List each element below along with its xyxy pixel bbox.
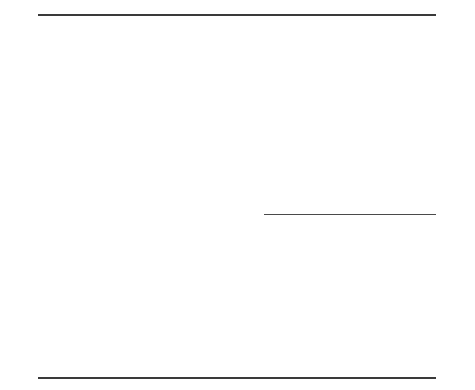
legend-divider (264, 214, 436, 215)
legend (264, 214, 464, 364)
plot-area (58, 40, 216, 166)
chart-panel-food-trade-balance (0, 208, 232, 368)
chart-panel-food-imports (0, 22, 232, 190)
bottom-rule (38, 377, 436, 379)
top-rule (38, 14, 436, 16)
plot-area (298, 40, 456, 166)
chart-panel-food-exports (240, 22, 472, 190)
figure-page (0, 0, 475, 390)
plot-area (58, 224, 216, 350)
